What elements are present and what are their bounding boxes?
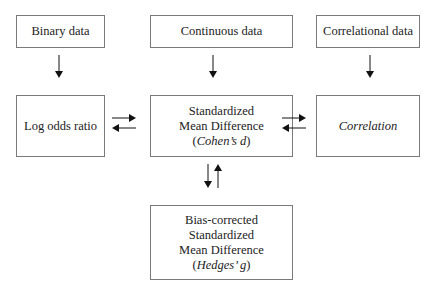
- arrow-right-logodds-to-smd: [112, 114, 136, 122]
- arrow-right-smd-to-correlation: [282, 114, 306, 122]
- arrow-left-correlation-to-smd: [282, 124, 306, 132]
- arrow-down-continuous: [209, 55, 217, 78]
- arrows-layer: [0, 0, 436, 293]
- arrow-up-hedges-to-smd: [214, 164, 222, 188]
- arrow-down-smd-to-hedges: [204, 164, 212, 188]
- arrow-down-binary: [55, 55, 63, 78]
- arrow-down-correlational: [366, 55, 374, 78]
- arrow-left-smd-to-logodds: [112, 124, 136, 132]
